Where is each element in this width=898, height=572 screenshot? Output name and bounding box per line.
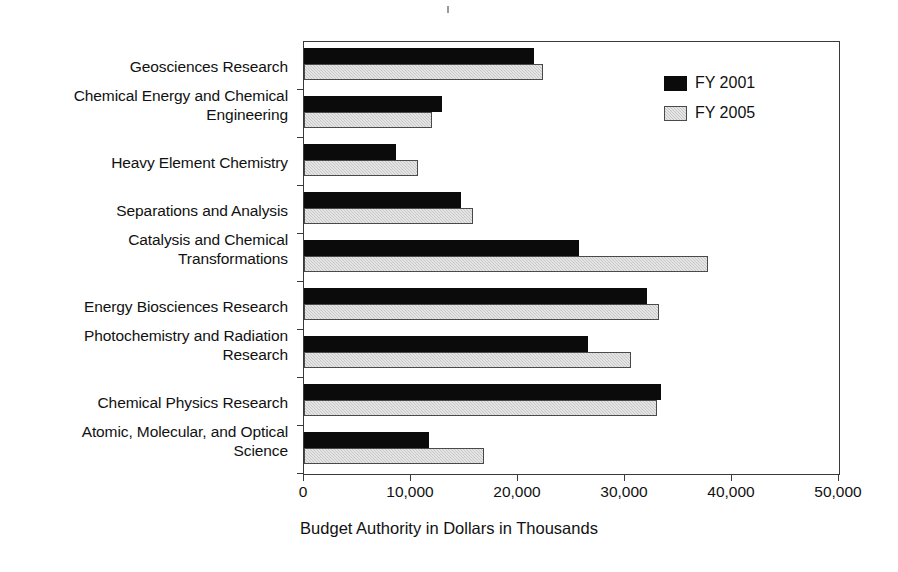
bar-fy2005	[304, 400, 657, 416]
bar-group	[304, 336, 839, 384]
category-label-line: Heavy Element Chemistry	[0, 153, 288, 172]
chart-legend: FY 2001FY 2005	[664, 68, 814, 128]
bar-group	[304, 384, 839, 432]
category-label-line: Transformations	[0, 249, 288, 268]
x-axis-tick-label: 10,000	[386, 483, 433, 501]
y-axis-tick	[297, 473, 304, 474]
category-label-line: Science	[0, 441, 288, 460]
bar-fy2001	[304, 432, 429, 448]
x-axis-tick-label: 40,000	[707, 483, 754, 501]
category-label-line: Engineering	[0, 105, 288, 124]
y-axis-tick	[297, 425, 304, 426]
bar-fy2001	[304, 96, 442, 112]
category-label: Energy Biosciences Research	[0, 297, 288, 316]
bar-fy2001	[304, 192, 461, 208]
bar-fy2005	[304, 352, 631, 368]
bar-fy2001	[304, 384, 661, 400]
x-axis-tick-label: 20,000	[493, 483, 540, 501]
x-axis-tick	[410, 474, 411, 481]
legend-item: FY 2001	[664, 68, 814, 98]
bar-fy2005	[304, 448, 484, 464]
category-label: Photochemistry and RadiationResearch	[0, 326, 288, 364]
y-axis-tick	[297, 329, 304, 330]
legend-item: FY 2005	[664, 98, 814, 128]
category-label-line: Research	[0, 345, 288, 364]
bar-fy2001	[304, 288, 647, 304]
bar-fy2001	[304, 48, 534, 64]
bar-fy2001	[304, 144, 396, 160]
category-label-line: Chemical Energy and Chemical	[0, 86, 288, 105]
category-label: Chemical Energy and ChemicalEngineering	[0, 86, 288, 124]
y-axis-tick	[297, 377, 304, 378]
bar-fy2005	[304, 64, 543, 80]
x-axis-tick	[303, 474, 304, 481]
y-axis-tick	[297, 281, 304, 282]
page-crease-mark	[447, 6, 449, 13]
category-label: Heavy Element Chemistry	[0, 153, 288, 172]
bar-fy2005	[304, 256, 708, 272]
x-axis-tick-label: 50,000	[814, 483, 861, 501]
bar-fy2005	[304, 112, 432, 128]
x-axis-tick	[624, 474, 625, 481]
category-label: Atomic, Molecular, and OpticalScience	[0, 422, 288, 460]
x-axis-tick-label: 30,000	[600, 483, 647, 501]
category-label-line: Chemical Physics Research	[0, 393, 288, 412]
bar-chart-figure: Geosciences ResearchChemical Energy and …	[0, 0, 898, 572]
bar-fy2005	[304, 208, 473, 224]
y-axis-category-labels: Geosciences ResearchChemical Energy and …	[0, 41, 296, 473]
bar-group	[304, 240, 839, 288]
y-axis-tick	[297, 185, 304, 186]
legend-swatch-fy2001	[664, 76, 687, 91]
bar-fy2005	[304, 304, 659, 320]
bar-group	[304, 144, 839, 192]
y-axis-tick	[297, 233, 304, 234]
legend-swatch-fy2005	[664, 106, 687, 121]
category-label-line: Catalysis and Chemical	[0, 230, 288, 249]
legend-label: FY 2001	[695, 74, 755, 92]
category-label-line: Photochemistry and Radiation	[0, 326, 288, 345]
bar-group	[304, 192, 839, 240]
y-axis-tick	[297, 89, 304, 90]
bar-group	[304, 432, 839, 480]
bar-fy2005	[304, 160, 418, 176]
y-axis-tick	[297, 137, 304, 138]
x-axis-title: Budget Authority in Dollars in Thousands	[0, 519, 898, 538]
category-label-line: Geosciences Research	[0, 57, 288, 76]
x-axis-tick	[731, 474, 732, 481]
category-label-line: Energy Biosciences Research	[0, 297, 288, 316]
bar-fy2001	[304, 336, 588, 352]
bar-group	[304, 288, 839, 336]
legend-label: FY 2005	[695, 104, 755, 122]
category-label: Geosciences Research	[0, 57, 288, 76]
x-axis-tick	[838, 474, 839, 481]
category-label: Chemical Physics Research	[0, 393, 288, 412]
category-label: Catalysis and ChemicalTransformations	[0, 230, 288, 268]
category-label-line: Atomic, Molecular, and Optical	[0, 422, 288, 441]
bar-fy2001	[304, 240, 579, 256]
category-label: Separations and Analysis	[0, 201, 288, 220]
category-label-line: Separations and Analysis	[0, 201, 288, 220]
x-axis-tick	[517, 474, 518, 481]
x-axis-tick-label: 0	[299, 483, 308, 501]
